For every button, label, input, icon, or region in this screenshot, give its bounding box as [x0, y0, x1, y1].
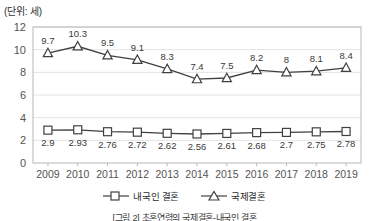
svg-text:7.5: 7.5 — [220, 60, 233, 71]
line-chart-plot: 024681012 200920102011201220132014201520… — [0, 0, 369, 221]
svg-text:8.2: 8.2 — [250, 52, 263, 63]
svg-text:2.62: 2.62 — [158, 140, 177, 151]
svg-text:2017: 2017 — [275, 168, 299, 180]
series-domestic-marriage — [44, 126, 350, 138]
svg-text:2.78: 2.78 — [337, 138, 356, 149]
svg-text:2.56: 2.56 — [188, 141, 207, 152]
legend-item-domestic[interactable]: 내국인 결혼 — [103, 189, 179, 203]
svg-text:2012: 2012 — [126, 168, 150, 180]
svg-text:2.7: 2.7 — [280, 139, 293, 150]
svg-text:0: 0 — [20, 157, 26, 169]
triangle-marker-icon — [201, 190, 227, 202]
svg-text:8.3: 8.3 — [161, 51, 174, 62]
grid-lines — [33, 27, 361, 140]
chart-legend: 내국인 결혼 국제결혼 — [0, 189, 369, 203]
legend-label-domestic: 내국인 결혼 — [133, 189, 179, 203]
svg-text:2.68: 2.68 — [247, 140, 266, 151]
svg-text:6: 6 — [20, 89, 26, 101]
svg-text:8.1: 8.1 — [310, 53, 323, 64]
svg-text:2015: 2015 — [215, 168, 239, 180]
svg-text:2.93: 2.93 — [68, 137, 87, 148]
svg-text:9.1: 9.1 — [131, 42, 144, 53]
chart-container: (단위: 세) 024681012 2009201020112012201320… — [0, 0, 369, 221]
svg-text:9.5: 9.5 — [101, 37, 114, 48]
svg-text:2011: 2011 — [96, 168, 119, 180]
svg-text:2.9: 2.9 — [41, 137, 54, 148]
svg-text:2.72: 2.72 — [128, 139, 147, 150]
svg-text:8: 8 — [284, 54, 289, 65]
svg-text:4: 4 — [20, 112, 26, 124]
svg-text:10.3: 10.3 — [68, 28, 87, 39]
x-axis-ticks: 2009201020112012201320142015201620172018… — [36, 163, 358, 180]
svg-text:7.4: 7.4 — [190, 61, 203, 72]
svg-text:8: 8 — [20, 66, 26, 78]
svg-text:2013: 2013 — [156, 168, 180, 180]
svg-text:2016: 2016 — [245, 168, 269, 180]
svg-text:2009: 2009 — [36, 168, 60, 180]
svg-text:2.76: 2.76 — [98, 139, 117, 150]
figure-caption: [그림 2] 초혼연령의 국제결혼-내국인 결혼 — [0, 211, 369, 221]
svg-text:2010: 2010 — [66, 168, 90, 180]
y-axis-ticks: 024681012 — [14, 21, 26, 169]
svg-text:2019: 2019 — [334, 168, 358, 180]
svg-text:8.4: 8.4 — [339, 50, 352, 61]
svg-text:10: 10 — [14, 44, 26, 56]
legend-label-international: 국제결혼 — [231, 189, 266, 203]
svg-text:2018: 2018 — [305, 168, 329, 180]
svg-text:2.61: 2.61 — [218, 140, 237, 151]
svg-text:2014: 2014 — [185, 168, 209, 180]
svg-text:2.75: 2.75 — [307, 139, 326, 150]
svg-text:9.7: 9.7 — [41, 35, 54, 46]
square-marker-icon — [103, 190, 129, 202]
svg-text:2: 2 — [20, 134, 26, 146]
legend-item-international[interactable]: 국제결혼 — [201, 189, 266, 203]
svg-text:12: 12 — [14, 21, 26, 33]
